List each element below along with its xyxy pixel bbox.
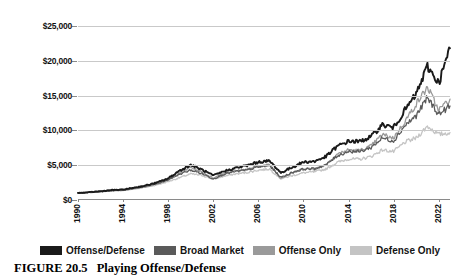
x-axis-tick	[258, 199, 259, 202]
x-axis-tick	[123, 199, 124, 202]
y-axis-label: $0	[63, 195, 72, 205]
x-axis-label: 2010	[298, 204, 307, 223]
y-axis-tick	[72, 200, 77, 201]
x-axis-label: 1994	[118, 204, 127, 223]
y-axis-label: $25,000	[43, 21, 72, 31]
x-axis-label: 2002	[208, 204, 217, 223]
y-axis-tick	[72, 61, 77, 62]
x-axis-label: 2018	[389, 204, 398, 223]
figure-number: FIGURE 20.5	[14, 261, 88, 275]
gridline	[78, 26, 450, 27]
figure-container: $0$5,000$10,000$15,000$20,000$25,000 199…	[0, 0, 468, 280]
series-line	[78, 48, 450, 194]
x-axis-label: 2022	[434, 204, 443, 223]
figure-title: Playing Offense/Defense	[97, 261, 227, 275]
legend-label: Broad Market	[180, 245, 244, 256]
chart-legend: Offense/DefenseBroad MarketOffense OnlyD…	[40, 243, 440, 257]
legend-item: Offense Only	[253, 245, 341, 256]
chart-lines	[78, 26, 450, 200]
x-axis-tick	[303, 199, 304, 202]
legend-swatch	[350, 246, 372, 255]
x-axis-tick	[168, 199, 169, 202]
y-axis-label: $10,000	[43, 125, 72, 135]
legend-label: Offense/Defense	[66, 245, 145, 256]
gridline	[78, 130, 450, 131]
legend-item: Offense/Defense	[40, 245, 145, 256]
y-axis-tick	[72, 165, 77, 166]
x-axis-label: 2006	[253, 204, 262, 223]
legend-item: Defense Only	[350, 245, 440, 256]
x-axis-tick	[213, 199, 214, 202]
x-axis-label: 1990	[73, 204, 82, 223]
plot-area	[78, 26, 450, 200]
legend-swatch	[253, 246, 275, 255]
legend-label: Offense Only	[279, 245, 341, 256]
x-axis-tick	[78, 199, 79, 202]
gridline	[78, 61, 450, 62]
y-axis-label: $5,000	[47, 160, 72, 170]
x-axis-tick	[349, 199, 350, 202]
x-axis-tick	[439, 199, 440, 202]
x-axis-tick	[394, 199, 395, 202]
x-axis: 199019941998200220062010201420182022	[78, 202, 450, 242]
legend-label: Defense Only	[376, 245, 440, 256]
legend-swatch	[40, 246, 62, 255]
y-axis: $0$5,000$10,000$15,000$20,000$25,000	[0, 26, 72, 200]
legend-swatch	[154, 246, 176, 255]
gridline	[78, 165, 450, 166]
y-axis-label: $20,000	[43, 56, 72, 66]
y-axis-tick	[72, 26, 77, 27]
x-axis-label: 1998	[163, 204, 172, 223]
y-axis-tick	[72, 96, 77, 97]
gridline	[78, 96, 450, 97]
legend-item: Broad Market	[154, 245, 244, 256]
y-axis-tick	[72, 130, 77, 131]
figure-caption: FIGURE 20.5Playing Offense/Defense	[14, 261, 454, 276]
x-axis-label: 2014	[344, 204, 353, 223]
y-axis-label: $15,000	[43, 91, 72, 101]
series-line	[78, 126, 450, 193]
series-line	[78, 96, 450, 193]
